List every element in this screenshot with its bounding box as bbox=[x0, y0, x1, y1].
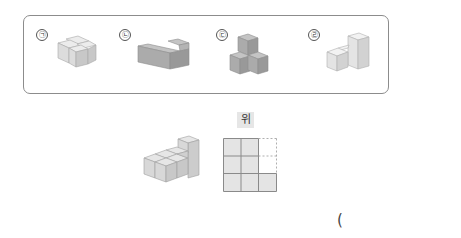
figure-choice-4 bbox=[324, 32, 374, 82]
answer-paren: ( bbox=[337, 211, 343, 229]
top-view-grid bbox=[223, 138, 277, 192]
choice-label-3: ㉢ bbox=[216, 29, 228, 41]
figure-choice-1 bbox=[54, 36, 99, 81]
choice-label-2: ㉡ bbox=[119, 29, 131, 41]
choice-label-4: ㉣ bbox=[308, 29, 320, 41]
top-view-label: 위 bbox=[237, 112, 254, 128]
figure-choice-2 bbox=[136, 39, 196, 79]
figure-choice-3 bbox=[229, 33, 279, 83]
main-figure bbox=[136, 133, 216, 193]
choice-label-1: ㉠ bbox=[36, 29, 48, 41]
